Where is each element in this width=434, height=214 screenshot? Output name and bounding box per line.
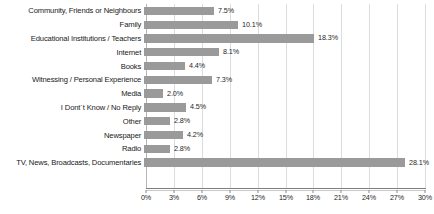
bar-zone: 18.3%	[144, 32, 434, 46]
x-tick-label: 15%	[278, 193, 292, 202]
value-label: 4.2%	[187, 131, 203, 139]
x-tick-label: 3%	[169, 193, 179, 202]
bar-row: Internet8.1%	[0, 45, 434, 59]
value-label: 10.1%	[242, 21, 262, 29]
bar[interactable]	[144, 131, 183, 139]
bar[interactable]	[144, 145, 170, 153]
bar[interactable]	[144, 21, 238, 29]
bar-row: Witnessing / Personal Experience7.3%	[0, 73, 434, 87]
category-label: Books	[9, 62, 144, 71]
bar-row: Family10.1%	[0, 18, 434, 32]
value-label: 2.8%	[174, 117, 190, 125]
bar-row: Books4.4%	[0, 59, 434, 73]
x-tick-label: 18%	[306, 193, 320, 202]
bar[interactable]	[144, 76, 212, 84]
value-label: 18.3%	[318, 34, 338, 42]
bar-zone: 8.1%	[144, 45, 434, 59]
category-label: Media	[9, 89, 144, 98]
category-label: TV, News, Broadcasts, Documentaries	[9, 158, 144, 167]
bar-zone: 2.8%	[144, 142, 434, 156]
category-label: Radio	[9, 144, 144, 153]
bar[interactable]	[144, 7, 214, 15]
value-label: 2.8%	[174, 145, 190, 153]
bar-zone: 7.5%	[144, 4, 434, 18]
value-label: 7.5%	[218, 7, 234, 15]
x-tick-label: 21%	[334, 193, 348, 202]
category-label: Newspaper	[9, 131, 144, 140]
bar-row: Newspaper4.2%	[0, 128, 434, 142]
bar-row: Community, Friends or Neighbours7.5%	[0, 4, 434, 18]
bar-rows: Community, Friends or Neighbours7.5%Fami…	[0, 4, 434, 170]
x-axis-ticks: 0%3%6%9%12%15%18%21%24%27%30%	[146, 193, 426, 207]
category-label: Family	[9, 20, 144, 29]
x-tick-label: 0%	[141, 193, 151, 202]
bar[interactable]	[144, 48, 219, 56]
category-label: Witnessing / Personal Experience	[9, 75, 144, 84]
bar-zone: 4.5%	[144, 101, 434, 115]
x-axis-line-shadow	[146, 190, 426, 191]
plot-area: Community, Friends or Neighbours7.5%Fami…	[0, 4, 434, 190]
bar[interactable]	[144, 117, 170, 125]
bar-zone: 2.0%	[144, 87, 434, 101]
x-tick-label: 30%	[418, 193, 432, 202]
bar-zone: 28.1%	[144, 156, 434, 170]
x-tick-label: 6%	[197, 193, 207, 202]
category-label: Educational Institutions / Teachers	[9, 34, 144, 43]
category-label: I Dont´t Know / No Reply	[9, 103, 144, 112]
x-axis-line	[146, 188, 426, 189]
value-label: 8.1%	[223, 48, 239, 56]
bar-row: TV, News, Broadcasts, Documentaries28.1%	[0, 156, 434, 170]
value-label: 28.1%	[409, 159, 429, 167]
bar-zone: 7.3%	[144, 73, 434, 87]
x-tick-label: 27%	[390, 193, 404, 202]
bar-row: Radio2.8%	[0, 142, 434, 156]
value-label: 4.4%	[189, 62, 205, 70]
bar-zone: 4.2%	[144, 128, 434, 142]
bar[interactable]	[144, 103, 186, 111]
category-label: Other	[9, 117, 144, 126]
category-label: Community, Friends or Neighbours	[9, 6, 144, 15]
value-label: 7.3%	[216, 76, 232, 84]
bar[interactable]	[144, 62, 185, 70]
bar-zone: 10.1%	[144, 18, 434, 32]
bar-row: Educational Institutions / Teachers18.3%	[0, 32, 434, 46]
bar-row: Media2.0%	[0, 87, 434, 101]
bar[interactable]	[144, 158, 405, 166]
bar[interactable]	[144, 34, 314, 42]
bar-row: Other2.8%	[0, 114, 434, 128]
bar[interactable]	[144, 89, 163, 97]
x-tick-label: 12%	[251, 193, 265, 202]
bar-chart: Community, Friends or Neighbours7.5%Fami…	[0, 0, 434, 214]
bar-zone: 2.8%	[144, 114, 434, 128]
category-label: Internet	[9, 48, 144, 57]
bar-zone: 4.4%	[144, 59, 434, 73]
x-tick-label: 24%	[362, 193, 376, 202]
value-label: 4.5%	[190, 103, 206, 111]
x-tick-label: 9%	[225, 193, 235, 202]
value-label: 2.0%	[167, 90, 183, 98]
bar-row: I Dont´t Know / No Reply4.5%	[0, 101, 434, 115]
